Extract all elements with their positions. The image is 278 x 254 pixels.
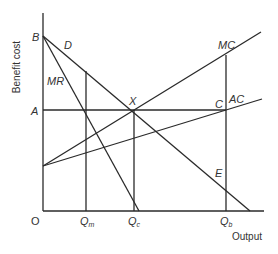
y-axis-label: Benefit cost	[11, 41, 22, 93]
tick-Qb: Qb	[220, 215, 233, 228]
tick-Qm: Qm	[80, 215, 95, 228]
label-C: C	[215, 98, 223, 110]
x-axis-label: Output	[232, 231, 262, 242]
label-MC: MC	[218, 39, 235, 51]
demand-curve-D	[43, 36, 250, 211]
label-B: B	[32, 31, 39, 43]
label-E: E	[215, 167, 223, 179]
label-D: D	[64, 39, 72, 51]
label-X: X	[128, 95, 137, 107]
tick-Qc: Qc	[128, 215, 141, 228]
label-MR: MR	[47, 75, 64, 87]
average-cost-curve-AC	[43, 99, 262, 166]
origin-label: O	[31, 215, 40, 227]
label-A: A	[30, 105, 38, 117]
benefit-cost-diagram: Benefit cost B D MR A X MC C AC E O Qm Q…	[0, 0, 278, 254]
label-AC: AC	[228, 93, 244, 105]
marginal-revenue-curve-MR	[43, 36, 139, 211]
